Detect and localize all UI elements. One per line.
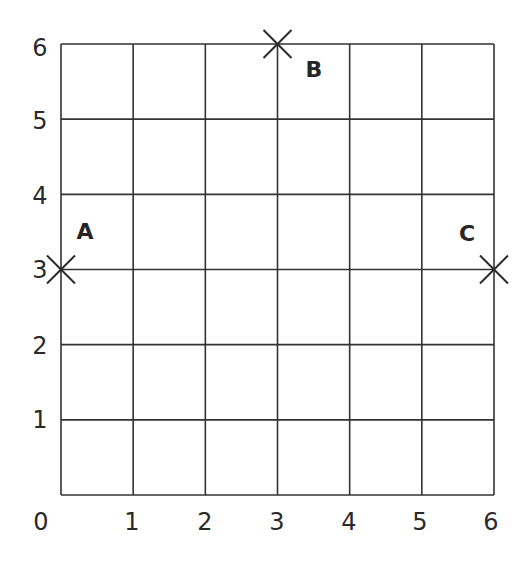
y-label-2: 2 [32,334,47,358]
y-label-4: 4 [32,184,47,208]
x-label-6: 6 [483,510,498,534]
x-label-2: 2 [197,510,212,534]
x-label-0: 0 [33,510,48,534]
x-label-3: 3 [269,510,284,534]
point-label-a: A [76,221,93,243]
x-label-4: 4 [341,510,356,534]
x-label-5: 5 [412,510,427,534]
x-label-1: 1 [124,510,139,534]
point-label-b: B [306,59,323,81]
y-label-3: 3 [32,258,47,282]
y-label-6: 6 [32,36,47,60]
y-label-5: 5 [32,109,47,133]
coordinate-grid-diagram: 0 1 2 3 4 5 6 1 2 3 4 5 6 A B C [0,0,529,575]
y-label-1: 1 [32,408,47,432]
grid-lines [0,0,529,575]
point-label-c: C [459,223,475,245]
